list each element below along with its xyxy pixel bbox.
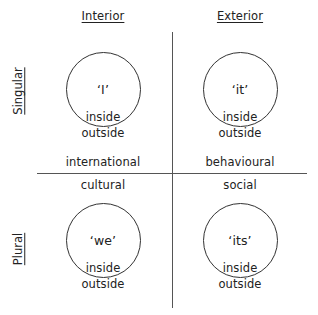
horizontal-axis-line: [37, 173, 307, 174]
label-cultural: cultural: [81, 180, 125, 192]
outside-label-lower-left: outside: [81, 279, 124, 291]
inside-label-upper-right: inside: [223, 112, 258, 124]
row-header-singular: Singular: [13, 67, 25, 114]
row-header-plural: Plural: [13, 233, 25, 265]
column-header-interior: Interior: [82, 11, 125, 23]
four-quadrant-diagram: Interior Exterior Singular Plural ‘I’ in…: [0, 0, 318, 315]
label-behavioural: behavioural: [205, 157, 274, 169]
label-international: international: [66, 157, 141, 169]
outside-label-lower-right: outside: [218, 279, 261, 291]
label-social: social: [223, 180, 256, 192]
column-header-exterior: Exterior: [217, 11, 263, 23]
outside-label-upper-right: outside: [218, 128, 261, 140]
outside-label-upper-left: outside: [81, 128, 124, 140]
pronoun-i: ‘I’: [97, 84, 109, 97]
inside-label-lower-right: inside: [223, 263, 258, 275]
pronoun-its: ‘its’: [228, 235, 251, 248]
pronoun-we: ‘we’: [90, 235, 116, 248]
inside-label-lower-left: inside: [86, 263, 121, 275]
vertical-axis-line: [172, 32, 173, 308]
pronoun-it: ‘it’: [232, 84, 249, 97]
inside-label-upper-left: inside: [86, 112, 121, 124]
